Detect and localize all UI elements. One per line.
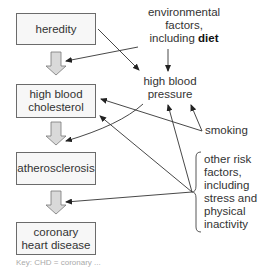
box-atherosclerosis: atherosclerosis xyxy=(16,152,96,185)
box-high-blood-cholesterol: high blood cholesterol xyxy=(16,84,96,118)
label-smoking: smoking xyxy=(205,124,248,137)
box-heredity: heredity xyxy=(16,13,96,45)
arrow-env-to-cholesterol xyxy=(66,47,138,61)
box-coronary-heart-disease: coronary heart disease xyxy=(16,222,96,255)
arrow-other-to-chd xyxy=(66,192,192,202)
arrow-other-to-cholesterol xyxy=(100,116,192,192)
env-line3: including diet xyxy=(130,32,238,45)
hbp-line2: pressure xyxy=(130,88,210,101)
box-atherosclerosis-label: atherosclerosis xyxy=(17,162,94,175)
box-cholesterol-label: high blood cholesterol xyxy=(28,88,84,114)
hbp-line1: high blood xyxy=(130,75,210,88)
label-other-risk-factors: other risk factors, including stress and… xyxy=(204,153,257,231)
other-line1: other risk xyxy=(204,153,257,166)
arrow-smoking-to-cholesterol xyxy=(101,99,202,131)
other-line2: factors, xyxy=(204,166,257,179)
other-line4: stress and xyxy=(204,192,257,205)
block-arrow-1 xyxy=(46,52,66,75)
other-line3: including xyxy=(204,179,257,192)
other-line6: inactivity xyxy=(204,218,257,231)
env-diet-bold: diet xyxy=(198,32,218,44)
label-high-blood-pressure: high blood pressure xyxy=(130,75,210,101)
env-line2: factors, xyxy=(130,19,238,32)
env-line1: environmental xyxy=(130,6,238,19)
box-chd-label: coronary heart disease xyxy=(21,226,90,252)
other-line5: physical xyxy=(204,205,257,218)
label-environmental-factors: environmental factors, including diet xyxy=(130,6,238,45)
block-arrow-3 xyxy=(46,191,66,214)
block-arrow-2 xyxy=(46,122,66,145)
arrow-smoking-to-hbp xyxy=(191,105,202,131)
env-line3-prefix: including xyxy=(149,32,198,44)
curly-brace xyxy=(192,152,201,232)
footer-partial-caption: Key: CHD = coronary ... xyxy=(16,258,101,267)
box-heredity-label: heredity xyxy=(36,23,77,36)
arrow-other-to-hbp xyxy=(168,105,192,192)
